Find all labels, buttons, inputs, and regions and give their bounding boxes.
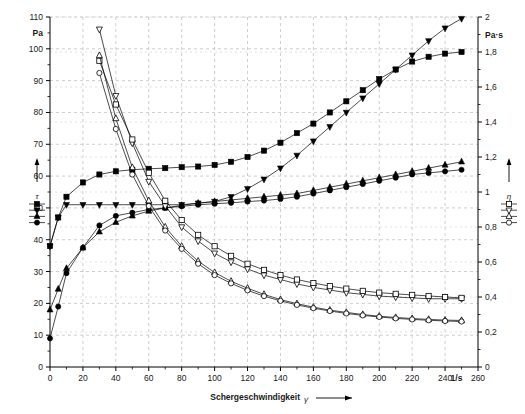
data-point-filled-down-triangle: [442, 26, 448, 32]
tick-label-left: 30: [34, 267, 44, 277]
series-tau-square: [47, 49, 464, 248]
data-point-open-circle: [278, 298, 283, 303]
data-point-open-circle: [163, 228, 168, 233]
data-point-open-square: [377, 290, 382, 295]
data-point-filled-square: [113, 169, 118, 174]
data-point-filled-circle: [47, 336, 52, 341]
series-line: [50, 19, 462, 247]
tick-label-x: 100: [208, 373, 222, 383]
data-point-filled-up-triangle: [55, 285, 61, 291]
series-tau-up-triangle: [47, 158, 465, 312]
data-point-open-circle: [294, 302, 299, 307]
data-point-filled-down-triangle: [277, 166, 283, 172]
x-axis-unit: 1/s: [451, 373, 463, 383]
tick-label-x: 0: [48, 373, 53, 383]
left-axis-unit: Pa: [33, 28, 44, 38]
data-point-filled-down-triangle: [327, 125, 333, 131]
tick-label-right: 0,6: [485, 257, 497, 267]
tick-label-right: 1,4: [485, 117, 497, 127]
tick-label-x: 180: [339, 373, 353, 383]
data-point-filled-square: [212, 162, 217, 167]
data-point-filled-down-triangle: [376, 82, 382, 88]
tick-label-x: 260: [471, 373, 485, 383]
data-point-filled-circle: [294, 194, 299, 199]
data-point-filled-circle: [377, 178, 382, 183]
legend-right-symbol: η: [507, 192, 512, 201]
data-point-open-square: [410, 292, 415, 297]
tick-label-x: 140: [273, 373, 287, 383]
series-line: [50, 170, 462, 339]
chart-root: 0102030405060708090100110Pa00,20,40,60,8…: [0, 0, 525, 414]
tick-label-left: 10: [34, 330, 44, 340]
data-point-open-square: [196, 232, 201, 237]
data-point-open-circle: [360, 313, 365, 318]
series-tau-down-triangle: [47, 16, 465, 249]
tick-label-right: 1,8: [485, 47, 497, 57]
data-point-open-up-triangle: [96, 52, 102, 58]
data-point-open-down-triangle: [310, 285, 316, 291]
data-point-filled-square: [163, 166, 168, 171]
data-point-filled-circle: [179, 204, 184, 209]
data-point-open-square: [179, 217, 184, 222]
tick-label-right: 0,2: [485, 327, 497, 337]
data-point-open-square: [261, 267, 266, 272]
data-point-filled-square: [245, 154, 250, 159]
grid-lines: [50, 17, 478, 367]
tick-label-x: 160: [306, 373, 320, 383]
data-point-filled-square: [294, 131, 299, 136]
data-point-filled-square: [97, 172, 102, 177]
tick-label-right: 0,4: [485, 292, 497, 302]
data-point-filled-square: [410, 59, 415, 64]
data-point-filled-down-triangle: [310, 139, 316, 145]
data-point-open-square: [327, 284, 332, 289]
data-point-open-circle: [393, 316, 398, 321]
data-point-filled-circle: [410, 172, 415, 177]
data-point-filled-square: [442, 51, 447, 56]
tick-label-x: 200: [372, 373, 386, 383]
data-point-open-square: [459, 295, 464, 300]
data-point-filled-square: [179, 165, 184, 170]
data-point-filled-down-triangle: [129, 203, 135, 209]
data-point-open-down-triangle: [212, 251, 218, 257]
data-point-filled-circle: [113, 213, 118, 218]
x-axis-arrow-head: [345, 396, 352, 401]
axis-spines: [50, 17, 478, 367]
data-point-filled-square: [344, 99, 349, 104]
right-axis-unit: Pa·s: [485, 30, 503, 40]
data-point-open-circle: [261, 294, 266, 299]
data-point-filled-square: [360, 88, 365, 93]
legend-left: τ: [29, 158, 45, 225]
tick-label-x: 60: [144, 373, 154, 383]
data-point-open-square: [426, 293, 431, 298]
data-point-filled-square: [377, 76, 382, 81]
data-point-filled-circle: [278, 196, 283, 201]
data-point-filled-circle: [64, 271, 69, 276]
data-point-filled-circle: [344, 185, 349, 190]
tick-label-left: 70: [34, 139, 44, 149]
x-axis-title: Schergeschwindigkeit: [210, 392, 300, 402]
data-point-open-square: [294, 277, 299, 282]
data-point-open-square: [245, 261, 250, 266]
data-point-filled-square: [327, 110, 332, 115]
data-point-filled-square: [311, 121, 316, 126]
data-point-filled-square: [196, 164, 201, 169]
data-point-open-square: [130, 137, 135, 142]
x-axis-symbol: γ̇: [304, 395, 309, 404]
tick-label-right: 1,2: [485, 152, 497, 162]
data-point-open-circle: [179, 246, 184, 251]
data-point-filled-down-triangle: [294, 153, 300, 159]
tick-label-left: 110: [29, 12, 43, 22]
data-point-open-down-triangle: [179, 225, 185, 231]
data-point-filled-circle: [228, 200, 233, 205]
data-point-filled-down-triangle: [426, 39, 432, 45]
data-point-filled-square: [64, 194, 69, 199]
data-point-filled-circle: [426, 170, 431, 175]
legend-marker-open-square: [506, 201, 511, 206]
series-tau-circle: [47, 167, 464, 341]
data-point-open-circle: [311, 306, 316, 311]
x-axis-ticks: 020406080100120140160180200220240260: [48, 367, 486, 383]
data-point-open-square: [163, 198, 168, 203]
data-point-open-circle: [410, 317, 415, 322]
left-axis-ticks: 0102030405060708090100110: [29, 12, 50, 372]
tick-label-right: 2: [485, 12, 490, 22]
